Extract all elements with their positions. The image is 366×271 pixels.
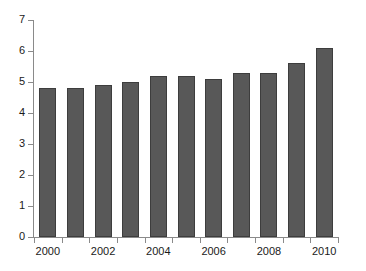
y-axis-tick-label: 6 [0, 45, 25, 56]
x-axis-tick [89, 238, 90, 243]
y-axis-tick-label: 1 [0, 200, 25, 211]
bar [178, 76, 195, 237]
x-axis-tick-label: 2000 [28, 246, 68, 257]
x-axis-tick [62, 238, 63, 243]
y-axis-tick-label: 7 [0, 14, 25, 25]
bar [233, 73, 250, 237]
x-axis-tick-label: 2008 [249, 246, 289, 257]
x-axis-tick-label: 2006 [194, 246, 234, 257]
y-axis-tick [28, 237, 33, 238]
x-axis-tick [145, 238, 146, 243]
x-axis-line [33, 237, 339, 238]
y-axis-tick-label: 2 [0, 169, 25, 180]
y-axis-tick-label: 0 [0, 231, 25, 242]
bar [205, 79, 222, 237]
bar-chart: 01234567 200020022004200620082010 [0, 0, 366, 271]
x-axis-tick [34, 238, 35, 243]
y-axis-tick-label: 3 [0, 138, 25, 149]
y-axis-tick [28, 20, 33, 21]
x-axis-tick [227, 238, 228, 243]
bars-layer [34, 20, 338, 237]
x-axis-tick-label: 2010 [304, 246, 344, 257]
x-axis-tick [338, 238, 339, 243]
bar [260, 73, 277, 237]
y-axis-tick-label: 4 [0, 107, 25, 118]
y-axis-tick [28, 82, 33, 83]
bar [95, 85, 112, 237]
bar [67, 88, 84, 237]
x-axis-tick [255, 238, 256, 243]
x-axis-tick [310, 238, 311, 243]
x-axis-tick-label: 2004 [138, 246, 178, 257]
bar [122, 82, 139, 237]
y-axis-tick [28, 175, 33, 176]
x-axis-tick [117, 238, 118, 243]
y-axis-tick [28, 206, 33, 207]
bar [39, 88, 56, 237]
y-axis-tick [28, 113, 33, 114]
bar [316, 48, 333, 237]
x-axis-tick [172, 238, 173, 243]
y-axis-tick-label: 5 [0, 76, 25, 87]
y-axis-tick [28, 144, 33, 145]
bar [150, 76, 167, 237]
x-axis-tick [283, 238, 284, 243]
bar [288, 63, 305, 237]
x-axis-tick-label: 2002 [83, 246, 123, 257]
x-axis-tick [200, 238, 201, 243]
y-axis-tick [28, 51, 33, 52]
